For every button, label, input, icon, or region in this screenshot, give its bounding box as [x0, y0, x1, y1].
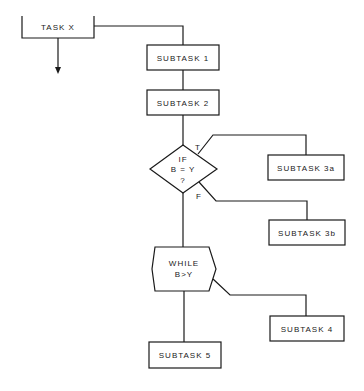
subtask-3b-label: SUBTASK 3b	[278, 229, 336, 238]
decision-line-1: IF	[178, 155, 187, 164]
subtask-3a-node: SUBTASK 3a	[268, 155, 344, 180]
false-branch-label: F	[196, 192, 202, 201]
subtask-4-node: SUBTASK 4	[270, 316, 344, 341]
true-branch: T	[195, 135, 306, 155]
subtask-5-node: SUBTASK 5	[149, 342, 221, 368]
arrow-down-icon	[55, 67, 61, 74]
subtask-2-label: SUBTASK 2	[157, 99, 209, 108]
task-x-exit-arrow	[55, 38, 61, 74]
decision-line-2: B = Y	[171, 165, 196, 174]
subtask-2-node: SUBTASK 2	[147, 90, 219, 115]
true-branch-label: T	[195, 143, 201, 152]
while-line-1: WHILE	[169, 259, 199, 268]
subtask-3b-node: SUBTASK 3b	[269, 220, 345, 245]
flowchart-canvas: TASK X SUBTASK 1 SUBTASK 2 IF B = Y ? T …	[0, 0, 364, 391]
connector-loop-subtask4	[213, 279, 306, 316]
false-branch: F	[196, 182, 307, 220]
subtask-5-label: SUBTASK 5	[159, 351, 211, 360]
subtask-1-label: SUBTASK 1	[157, 54, 209, 63]
decision-line-3: ?	[180, 176, 185, 185]
subtask-3a-label: SUBTASK 3a	[277, 164, 335, 173]
while-line-2: B>Y	[175, 270, 193, 279]
task-x-label: TASK X	[41, 23, 75, 32]
subtask-1-node: SUBTASK 1	[147, 45, 219, 70]
decision-node: IF B = Y ?	[150, 145, 217, 193]
subtask-4-label: SUBTASK 4	[281, 325, 333, 334]
task-x-node: TASK X	[22, 16, 94, 38]
while-loop-node: WHILE B>Y	[152, 247, 216, 291]
connector-taskx-subtask1	[94, 26, 183, 45]
